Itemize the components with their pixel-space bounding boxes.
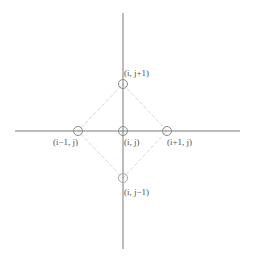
stencil-diagram: (i, j+1) (i−1, j) (i, j) (i+1, j) (i, j−… <box>0 0 254 263</box>
label-bottom: (i, j−1) <box>124 187 149 197</box>
label-left: (i−1, j) <box>53 137 78 147</box>
label-top: (i, j+1) <box>124 68 149 78</box>
label-right: (i+1, j) <box>167 137 192 147</box>
label-center: (i, j) <box>124 137 140 147</box>
diagram-svg <box>0 0 254 263</box>
